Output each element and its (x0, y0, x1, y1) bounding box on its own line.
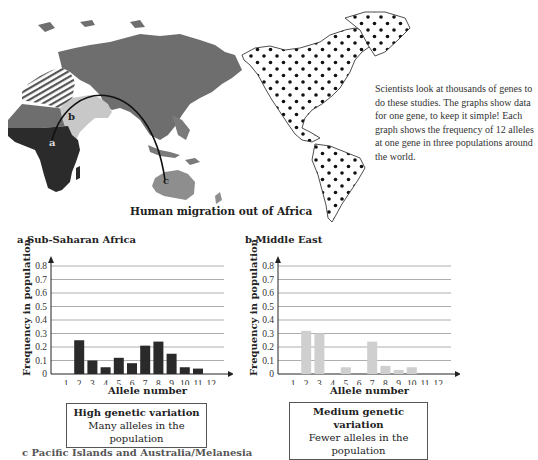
map-label-a: a (49, 137, 56, 148)
bar-allele-10 (407, 367, 417, 374)
x-tick-label: 3 (90, 379, 95, 385)
bar-allele-3 (87, 361, 97, 375)
bar-allele-7 (140, 346, 150, 374)
bar-allele-11 (193, 369, 203, 374)
bar-allele-9 (394, 370, 404, 374)
y-tick-label: 0.4 (262, 315, 274, 325)
y-tick-label: 0.4 (35, 315, 47, 325)
bar-allele-4 (101, 367, 111, 374)
x-tick-label: 12 (433, 379, 443, 385)
bar-allele-2 (74, 340, 84, 374)
chart-b: 00.10.20.30.40.50.60.70.8123456789101112 (255, 255, 460, 385)
x-tick-label: 11 (420, 379, 429, 385)
explanation-text: Scientists look at thousands of genes to… (375, 82, 535, 163)
bar-allele-6 (127, 363, 137, 374)
bar-allele-8 (153, 342, 163, 374)
y-tick-label: 0.6 (35, 288, 47, 298)
map-caption: Human migration out of Africa (130, 205, 312, 217)
y-tick-label: 0.5 (262, 302, 274, 312)
map-label-c: c (163, 175, 169, 186)
bar-allele-5 (341, 367, 351, 374)
y-tick-label: 0.1 (35, 356, 47, 366)
variation-box-medium-text: Fewer alleles in the population (290, 431, 427, 457)
y-axis-arrow-icon (275, 256, 281, 263)
bar-allele-3 (314, 334, 324, 375)
sub-saharan-africa-region (8, 126, 80, 192)
chart-b-xlabel: Allele number (330, 385, 409, 396)
variation-box-medium: Medium genetic variation Fewer alleles i… (289, 402, 428, 460)
y-tick-label: 0.6 (262, 288, 274, 298)
y-tick-label: 0.3 (262, 329, 274, 339)
y-tick-label: 0 (269, 369, 274, 379)
y-tick-label: 0.1 (262, 356, 274, 366)
variation-box-high-heading: High genetic variation (67, 406, 206, 419)
europe-hatched-region (22, 68, 75, 108)
bar-allele-8 (380, 366, 390, 374)
map-label-b: b (68, 111, 75, 122)
bar-allele-9 (167, 354, 177, 374)
bar-allele-5 (114, 358, 124, 374)
x-tick-label: 1 (64, 379, 69, 385)
y-tick-label: 0 (42, 369, 47, 379)
x-axis-arrow-icon (455, 371, 460, 377)
y-tick-label: 0.2 (262, 342, 274, 352)
y-tick-label: 0.3 (35, 329, 47, 339)
y-tick-label: 0.8 (35, 261, 47, 271)
y-tick-label: 0.7 (35, 275, 47, 285)
x-tick-label: 11 (193, 379, 202, 385)
y-tick-label: 0.8 (262, 261, 274, 271)
x-tick-label: 2 (77, 379, 82, 385)
bar-allele-2 (301, 331, 311, 374)
y-axis-arrow-icon (48, 256, 54, 263)
bar-allele-10 (180, 367, 190, 374)
variation-box-high-text: Many alleles in the population (67, 419, 206, 445)
y-tick-label: 0.5 (35, 302, 47, 312)
bar-allele-7 (367, 342, 377, 374)
australia-region (152, 170, 195, 200)
chart-a-title: a Sub-Saharan Africa (17, 234, 136, 245)
chart-a: 00.10.20.30.40.50.60.70.8123456789101112 (28, 255, 233, 385)
x-tick-label: 1 (291, 379, 296, 385)
variation-box-medium-heading: Medium genetic variation (290, 405, 427, 431)
chart-a-xlabel: Allele number (108, 385, 187, 396)
chart-c-title-partial: c Pacific Islands and Australia/Melanesi… (22, 447, 252, 458)
x-tick-label: 12 (206, 379, 216, 385)
y-tick-label: 0.7 (262, 275, 274, 285)
y-tick-label: 0.2 (35, 342, 47, 352)
x-tick-label: 3 (317, 379, 322, 385)
x-axis-arrow-icon (228, 371, 233, 377)
x-tick-label: 2 (304, 379, 309, 385)
variation-box-high: High genetic variation Many alleles in t… (66, 403, 207, 448)
